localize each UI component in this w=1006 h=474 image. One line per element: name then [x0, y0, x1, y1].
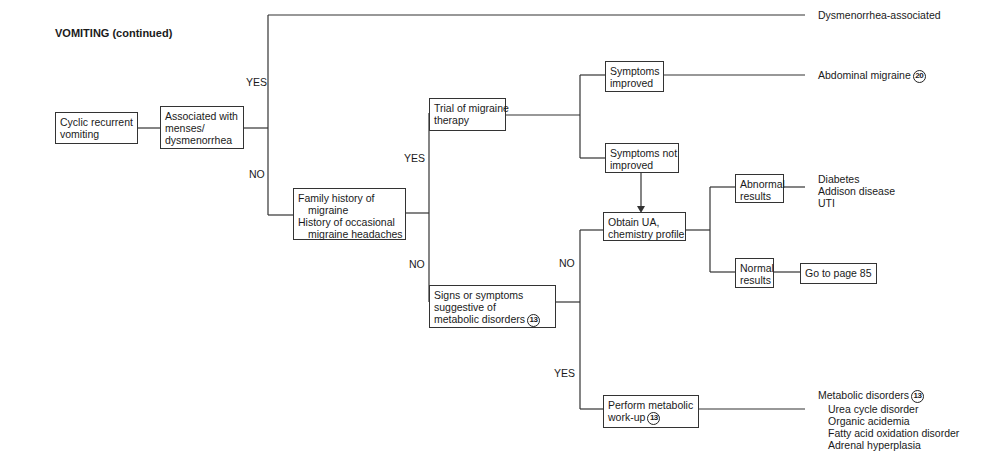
node-text: menses/	[165, 122, 239, 134]
node-text: Go to page 85	[805, 267, 872, 279]
node-text: suggestive of	[434, 301, 551, 313]
outcome-abnormal-diagnoses: Diabetes Addison disease UTI	[818, 173, 895, 209]
node-text: dysmenorrhea	[165, 134, 239, 146]
node-family-history-migraine: Family history of migraine History of oc…	[293, 188, 406, 240]
node-associated-with-menses: Associated with menses/ dysmenorrhea	[160, 106, 244, 149]
branch-label-no: NO	[559, 257, 575, 269]
node-text: Signs or symptoms	[434, 289, 551, 301]
diagnosis-item: UTI	[818, 197, 895, 209]
node-text: chemistry profile	[608, 228, 681, 240]
node-text: Associated with	[165, 110, 239, 122]
node-text: work-up	[608, 411, 645, 423]
node-text: Normal	[740, 262, 769, 274]
node-text: migraine	[298, 204, 401, 216]
node-text: Symptoms	[610, 65, 659, 77]
branch-label-no: NO	[249, 168, 265, 180]
outcome-abdominal-migraine: Abdominal migraine20	[818, 69, 926, 83]
node-trial-migraine-therapy: Trial of migraine therapy	[429, 98, 506, 131]
node-text: results	[740, 274, 769, 286]
diagnosis-item: Addison disease	[818, 185, 895, 197]
chapter-ref-badge: 13	[911, 390, 924, 403]
node-text: improved	[610, 77, 659, 89]
node-text: Symptoms not	[610, 147, 674, 159]
branch-label-yes: YES	[404, 152, 425, 164]
chapter-ref-badge: 20	[913, 70, 926, 83]
chapter-ref-badge: 13	[647, 412, 660, 425]
node-text: migraine headaches	[298, 228, 401, 240]
chapter-ref-badge: 13	[527, 314, 540, 327]
node-text: Family history of	[298, 192, 401, 204]
node-text: History of occasional	[298, 216, 401, 228]
node-text: improved	[610, 159, 674, 171]
outcome-dysmenorrhea-associated: Dysmenorrhea-associated	[818, 9, 941, 21]
branch-label-no: NO	[409, 258, 425, 270]
diagnosis-item: Urea cycle disorder	[818, 403, 959, 415]
node-obtain-ua-chemistry: Obtain UA, chemistry profile	[603, 212, 686, 241]
node-symptoms-improved: Symptoms improved	[605, 61, 664, 92]
node-perform-metabolic-workup: Perform metabolic work-up13	[603, 395, 699, 428]
node-signs-metabolic-disorders: Signs or symptoms suggestive of metaboli…	[429, 285, 556, 328]
node-abnormal-results: Abnormal results	[735, 174, 784, 203]
page-title: VOMITING (continued)	[55, 27, 172, 39]
node-text: Abnormal	[740, 178, 779, 190]
node-text: metabolic disorders	[434, 313, 525, 325]
diagnosis-item: Adrenal hyperplasia	[818, 439, 959, 451]
node-go-to-page-85[interactable]: Go to page 85	[800, 263, 877, 284]
diagnosis-item: Fatty acid oxidation disorder	[818, 427, 959, 439]
outcome-heading: Metabolic disorders	[818, 389, 909, 401]
node-text: therapy	[434, 114, 501, 126]
node-text: Cyclic recurrent	[60, 116, 133, 128]
outcome-metabolic-disorders: Metabolic disorders13 Urea cycle disorde…	[818, 389, 959, 451]
outcome-text: Abdominal migraine	[818, 69, 911, 81]
node-normal-results: Normal results	[735, 258, 774, 288]
node-symptoms-not-improved: Symptoms not improved	[605, 143, 679, 173]
node-text: vomiting	[60, 128, 133, 140]
node-text: results	[740, 190, 779, 202]
diagnosis-item: Organic acidemia	[818, 415, 959, 427]
node-text: Perform metabolic	[608, 399, 694, 411]
diagnosis-item: Diabetes	[818, 173, 895, 185]
node-cyclic-recurrent-vomiting: Cyclic recurrent vomiting	[55, 112, 138, 144]
branch-label-yes: YES	[554, 367, 575, 379]
node-text: Obtain UA,	[608, 216, 681, 228]
branch-label-yes: YES	[246, 76, 267, 88]
node-text: Trial of migraine	[434, 102, 501, 114]
